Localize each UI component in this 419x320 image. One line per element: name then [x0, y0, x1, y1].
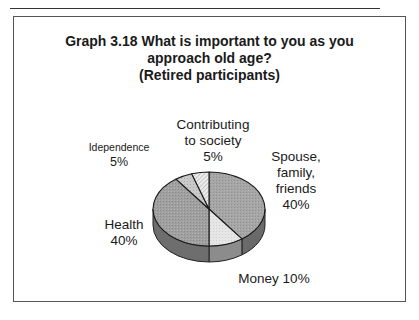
label-spouse-family-friends: Spouse, family, friends 40% [263, 149, 329, 213]
label-spouse-line3: friends [263, 181, 329, 197]
label-spouse-pct: 40% [263, 197, 329, 213]
label-independence-pct: 5% [83, 154, 155, 170]
label-contributing: Contributing to society 5% [168, 117, 258, 165]
label-contributing-pct: 5% [168, 149, 258, 165]
label-health-pct: 40% [98, 233, 150, 249]
label-contributing-line1: Contributing [168, 117, 258, 133]
label-health: Health 40% [98, 217, 150, 249]
label-independence: Idependence 5% [83, 140, 155, 170]
label-spouse-line2: family, [263, 165, 329, 181]
label-health-name: Health [98, 217, 150, 233]
label-spouse-line1: Spouse, [263, 149, 329, 165]
label-independence-name: Idependence [83, 140, 155, 154]
label-money: Money 10% [234, 271, 314, 287]
label-contributing-line2: to society [168, 133, 258, 149]
